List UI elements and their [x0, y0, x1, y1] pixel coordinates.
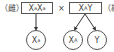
cross-symbol: ×	[58, 4, 65, 14]
female-genotype-box: XaXa	[21, 2, 53, 14]
arrow-male-to-xa-gamete	[75, 14, 85, 29]
gamete-circle-xa-female: Xa	[26, 30, 46, 50]
gamete-3-base: Y	[95, 36, 100, 45]
gamete-circle-y-male: Y	[87, 30, 107, 50]
male-genotype-box: XAY	[69, 2, 102, 14]
arrow-male-to-y-gamete	[85, 14, 95, 29]
male-allele-2-base: Y	[88, 4, 93, 13]
male-label: （雄	[103, 4, 114, 14]
gamete-circle-xA-male: XA	[63, 30, 83, 50]
